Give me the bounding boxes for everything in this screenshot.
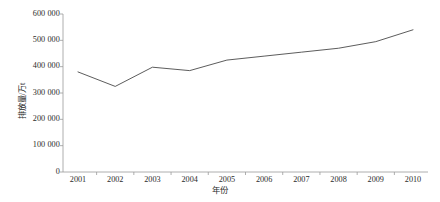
x-axis-title: 年份	[0, 186, 440, 196]
x-axis-tick-label: 2001	[70, 175, 86, 184]
y-axis-ticks	[60, 14, 63, 172]
x-axis-tick-label: 2010	[405, 175, 421, 184]
x-axis-tick-label: 2004	[181, 175, 197, 184]
x-axis-tick-label: 2003	[144, 175, 160, 184]
x-axis-tick-label: 2008	[330, 175, 346, 184]
data-series-line	[78, 30, 413, 87]
chart-canvas	[0, 0, 440, 202]
x-axis-tick-label: 2006	[256, 175, 272, 184]
x-axis-tick-label: 2009	[368, 175, 384, 184]
x-axis-tick-label: 2007	[293, 175, 309, 184]
x-axis-tick-label: 2005	[219, 175, 235, 184]
line-chart-figure: 0100 000200 000300 000400 000500 000600 …	[0, 0, 440, 202]
x-axis-tick-label: 2002	[107, 175, 123, 184]
